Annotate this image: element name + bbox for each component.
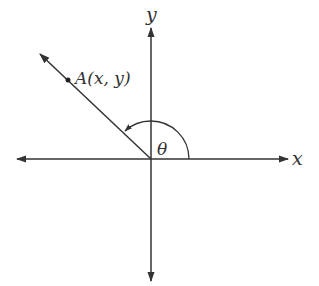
diagram-canvas: y x A(x, y) θ <box>0 0 319 286</box>
y-axis-label: y <box>145 3 157 25</box>
angle-theta-label: θ <box>157 139 167 159</box>
x-axis-label: x <box>292 147 303 169</box>
point-a-label: A(x, y) <box>73 68 131 88</box>
point-a <box>66 78 71 83</box>
